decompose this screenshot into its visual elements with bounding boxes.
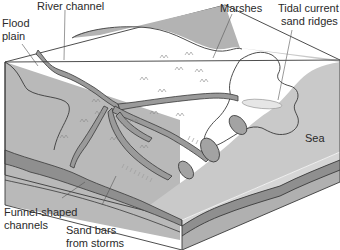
label-funnel-1: Funnel-shaped — [4, 206, 77, 218]
label-sea: Sea — [305, 132, 325, 144]
label-sandbars-2: from storms — [66, 237, 125, 249]
label-funnel-2: channels — [4, 219, 49, 231]
tidal-sand-ridge — [242, 98, 283, 110]
label-marshes: Marshes — [220, 2, 263, 14]
label-flood-plain-2: plain — [2, 30, 25, 42]
label-river-channel: River channel — [37, 0, 104, 12]
label-tidal-2: sand ridges — [281, 15, 338, 27]
label-tidal-1: Tidal current — [278, 2, 339, 14]
delta-block-diagram: Flood plain River channel Marshes Tidal … — [0, 0, 340, 250]
label-sandbars-1: Sand bars — [66, 224, 117, 236]
label-flood-plain-1: Flood — [2, 17, 30, 29]
